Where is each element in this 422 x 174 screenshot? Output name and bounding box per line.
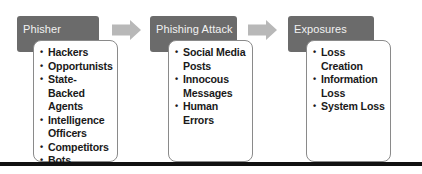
stage-title: Exposures — [294, 23, 347, 35]
bullet-icon: • — [313, 46, 316, 60]
stage-card-exposures: •Loss Creation •Information Loss •System… — [306, 40, 391, 162]
list-item: •System Loss — [313, 100, 386, 114]
stage-title: Phishing Attack — [156, 23, 233, 35]
right-arrow-icon — [112, 20, 141, 40]
list-item: •Hackers — [40, 46, 113, 60]
bullet-icon: • — [313, 73, 316, 87]
stage-item-list: •Hackers •Opportunists •State-Backed Age… — [40, 46, 113, 168]
bullet-icon: • — [40, 60, 43, 74]
bullet-icon: • — [40, 141, 43, 155]
list-item: •Loss Creation — [313, 46, 386, 73]
list-item: •Opportunists — [40, 60, 113, 74]
list-item: •Social Media Posts — [175, 46, 248, 73]
list-item: •Information Loss — [313, 73, 386, 100]
phishing-process-diagram: Phisher •Hackers •Opportunists •State-Ba… — [0, 0, 422, 174]
bullet-icon: • — [313, 100, 316, 114]
bullet-icon: • — [175, 73, 178, 87]
list-item: •Intelligence Officers — [40, 114, 113, 141]
bullet-icon: • — [175, 100, 178, 114]
bullet-icon: • — [175, 46, 178, 60]
stage-title: Phisher — [23, 23, 61, 35]
list-item: •State-Backed Agents — [40, 73, 113, 114]
list-item: •Innocous Messages — [175, 73, 248, 100]
right-arrow-icon — [248, 20, 277, 40]
list-item: •Competitors — [40, 141, 113, 155]
stage-card-phisher: •Hackers •Opportunists •State-Backed Age… — [33, 40, 118, 162]
bullet-icon: • — [40, 114, 43, 128]
bullet-icon: • — [40, 46, 43, 60]
list-item: •Human Errors — [175, 100, 248, 127]
stage-item-list: •Social Media Posts •Innocous Messages •… — [175, 46, 248, 127]
stage-item-list: •Loss Creation •Information Loss •System… — [313, 46, 386, 114]
bullet-icon: • — [40, 73, 43, 87]
stage-card-phishing-attack: •Social Media Posts •Innocous Messages •… — [168, 40, 253, 162]
bottom-divider — [0, 162, 422, 166]
